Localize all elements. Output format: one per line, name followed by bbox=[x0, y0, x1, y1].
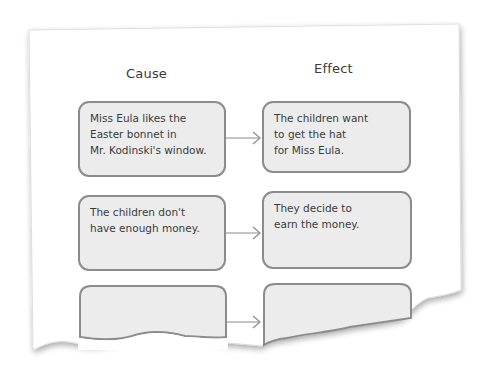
effect-box-3 bbox=[264, 284, 411, 345]
torn-paper-sheet: Cause Effect Miss Eula likes the Easter … bbox=[0, 0, 485, 368]
cause-box-3 bbox=[80, 286, 226, 340]
torn-empty-row bbox=[0, 0, 485, 368]
